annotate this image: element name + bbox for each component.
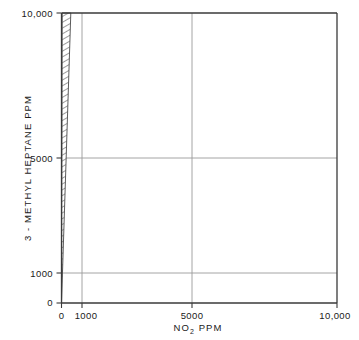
y-tick-label-5000: 5000: [30, 153, 53, 164]
x-tick-label-1000: 1000: [75, 310, 98, 321]
x-tick-label-10000: 10,000: [319, 310, 350, 321]
x-tick-label-5000: 5000: [181, 310, 204, 321]
x-axis-title-main: NO: [173, 322, 189, 333]
x-axis-title-tail: PPM: [195, 322, 223, 333]
x-tick-label-0: 0: [59, 310, 65, 321]
y-axis-title: 3 - METHYL HEPTANE PPM: [22, 95, 33, 241]
chart-background: [0, 0, 359, 340]
chart-svg: 0 1000 5000 10,000 0 1000 5000 10,000 NO…: [0, 0, 359, 340]
y-tick-label-10000: 10,000: [22, 8, 53, 19]
chart-figure: 0 1000 5000 10,000 0 1000 5000 10,000 NO…: [0, 0, 359, 340]
y-tick-label-0: 0: [47, 297, 53, 308]
x-axis-title: NO2 PPM: [173, 322, 222, 335]
y-axis-title-text: 3 - METHYL HEPTANE PPM: [22, 95, 33, 241]
svg-text:NO2 PPM: NO2 PPM: [173, 322, 222, 335]
y-tick-label-1000: 1000: [30, 268, 53, 279]
